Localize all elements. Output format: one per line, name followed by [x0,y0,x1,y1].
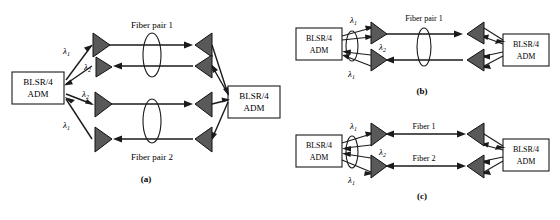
arrow-head [184,42,193,49]
panel-c-feeder-left-1 [342,132,374,144]
panel-b-fiber-line-2 [385,57,463,64]
panel-a-fiber-line-4 [113,136,193,143]
wavelength-label-1: λ1 [349,15,357,26]
adm-box[interactable] [296,135,342,167]
wavelength-label-4: λ1 [62,120,70,131]
adm-label-line1: BLSR/4 [239,91,269,101]
feeder-line [345,56,371,66]
fiber-pair-ellipse [143,99,161,143]
wavelength-label-1: λ1 [62,46,70,57]
adm-label-line1: BLSR/4 [513,145,539,154]
amplifier-icon [467,49,484,71]
panel-a-fiber-line-1 [108,42,193,49]
amplifier-icon [371,123,387,146]
amplifier-icon [96,57,112,77]
adm-label-line2: ADM [517,157,536,166]
wavelength-label-1: λ1 [349,121,357,132]
amplifier-icon [93,33,110,57]
fiber-1-label: Fiber 1 [413,122,436,131]
panel-a-fiber-line-3 [110,101,193,108]
amplifier-icon [467,155,484,178]
amplifier-icon [195,33,212,57]
panel-c-left-adm-node[interactable]: BLSR/4 ADM [296,135,342,167]
adm-label-line2: ADM [310,153,329,162]
panel-a-fiber-line-2 [113,63,193,70]
panel-b-right-adm-node[interactable]: BLSR/4 ADM [503,34,549,66]
fiber-pair-1-label: Fiber pair 1 [405,14,442,23]
panel-b-caption: (b) [417,86,428,96]
wavelength-label-3: λ1 [347,175,355,186]
amplifier-icon [195,55,212,78]
panel-a: BLSR/4 ADM BLSR/4 ADM [12,20,280,184]
amplifier-icon [371,155,387,178]
panel-a-left-adm-node[interactable]: BLSR/4 ADM [12,72,64,104]
adm-label-line1: BLSR/4 [513,40,539,49]
figure-canvas: BLSR/4 ADM BLSR/4 ADM [0,0,560,220]
wavelength-label-3: λ2 [81,89,89,100]
fiber-2-label: Fiber 2 [413,154,436,163]
fiber-pair-ellipse [143,33,161,77]
amplifier-icon [467,22,484,44]
arrow-head [84,45,92,52]
arrow-head [113,63,122,70]
panel-c-caption: (c) [417,191,427,201]
panel-a-caption: (a) [141,174,152,184]
panel-c-fiber-line-1 [385,131,466,138]
adm-label-line2: ADM [310,46,329,55]
adm-label-line1: BLSR/4 [306,141,332,150]
wavelength-label-2: λ2 [378,147,386,158]
adm-box[interactable] [503,139,549,171]
adm-label-line2: ADM [243,103,264,113]
wavelength-label-3: λ1 [347,69,355,80]
panel-c-feeder-left-4 [342,160,374,176]
network-diagram-svg: BLSR/4 ADM BLSR/4 ADM [0,0,560,220]
feeder-line [66,99,92,139]
panel-c-fiber-line-2 [385,163,466,170]
panel-a-feeder-right-4 [211,102,228,141]
panel-b-left-adm-node[interactable]: BLSR/4 ADM [296,28,342,60]
wavelength-label-2: λ2 [378,42,386,53]
adm-label-line2: ADM [27,89,48,99]
adm-box[interactable] [503,34,549,66]
panel-b: BLSR/4 ADM BLSR/4 ADM [296,14,549,96]
wavelength-label-2: λ2 [83,62,91,73]
fiber-pair-ellipse [346,136,358,168]
amplifier-icon [371,22,387,44]
arrow-head [113,136,122,143]
amplifier-icon [195,92,212,117]
arrow-head [457,163,466,170]
panel-b-feeder-left-1 [342,26,374,37]
amplifier-icon [95,127,112,152]
fiber-pair-2-label: Fiber pair 2 [131,152,173,162]
adm-label-line1: BLSR/4 [306,34,332,43]
arrow-head [457,131,466,138]
fiber-pair-1-label: Fiber pair 1 [131,20,173,30]
adm-box[interactable] [296,28,342,60]
panel-c-right-adm-node[interactable]: BLSR/4 ADM [503,139,549,171]
arrow-head [184,101,193,108]
amplifier-icon [95,92,112,117]
arrow-head [454,31,463,38]
panel-b-fiber-line-1 [386,31,463,38]
panel-c: BLSR/4 ADM BLSR/4 ADM [296,121,549,201]
fiber-pair-ellipse [346,31,358,61]
amplifier-icon [195,127,212,152]
adm-label-line1: BLSR/4 [23,77,53,87]
adm-label-line2: ADM [517,52,536,61]
amplifier-icon [467,123,484,146]
panel-a-right-adm-node[interactable]: BLSR/4 ADM [228,86,280,118]
